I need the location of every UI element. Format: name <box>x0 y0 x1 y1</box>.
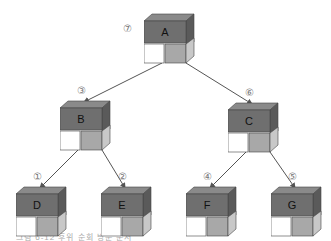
edge-arrow-A-B <box>84 63 162 102</box>
node-label: F <box>204 199 211 211</box>
node-box-icon: B <box>60 100 112 154</box>
visit-order-label-F: ④ <box>200 171 214 182</box>
node-label: B <box>77 113 84 125</box>
tree-diagram: 그림 6-12 후위 순회 방문 순서 A ⑦ B ③ C ⑥ <box>0 0 331 241</box>
visit-order-label-G: ⑤ <box>285 171 299 182</box>
node-box-icon: C <box>228 102 280 156</box>
tree-node-C: C <box>228 102 280 154</box>
tree-node-F: F <box>186 186 238 238</box>
visit-order-label-E: ② <box>115 171 129 182</box>
node-label: E <box>118 199 125 211</box>
node-box-icon: D <box>16 186 68 240</box>
node-box-icon: F <box>186 186 238 240</box>
node-box-icon: A <box>144 13 196 67</box>
tree-node-E: E <box>101 186 153 238</box>
edge-arrow-B-E <box>102 150 125 188</box>
edge-arrow-B-D <box>40 150 78 188</box>
tree-node-G: G <box>271 186 323 238</box>
edge-arrow-C-G <box>270 152 295 188</box>
edge-arrow-C-F <box>210 152 246 188</box>
node-label: G <box>288 199 297 211</box>
node-label: D <box>33 199 41 211</box>
visit-order-label-D: ① <box>30 171 44 182</box>
tree-node-B: B <box>60 100 112 152</box>
tree-node-D: D <box>16 186 68 238</box>
visit-order-label-C: ⑥ <box>242 87 256 98</box>
visit-order-label-A: ⑦ <box>120 23 134 34</box>
visit-order-label-B: ③ <box>74 85 88 96</box>
tree-node-A: A <box>144 13 196 65</box>
node-label: A <box>161 26 169 38</box>
node-box-icon: E <box>101 186 153 240</box>
node-label: C <box>245 115 253 127</box>
node-box-icon: G <box>271 186 323 240</box>
